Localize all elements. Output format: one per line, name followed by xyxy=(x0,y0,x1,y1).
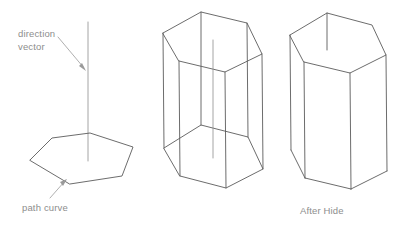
prism-hidden-front-left-vertical-edge xyxy=(304,62,305,178)
direction-vector-label-line2: vector xyxy=(18,41,45,52)
panel-swept-prism-after-hide: After Hide xyxy=(290,13,387,216)
prism-hidden-front-right-vertical-edge xyxy=(350,73,351,189)
prism-wireframe-vertical-edge-5 xyxy=(225,72,226,188)
path-curve-label: path curve xyxy=(22,202,68,213)
prism-wireframe-vertical-edge-3 xyxy=(247,23,248,137)
direction-vector-leader-line xyxy=(58,37,84,68)
prism-hidden-left-vertical-edge xyxy=(290,35,291,150)
direction-vector-label-line1: direction xyxy=(18,28,55,39)
prism-wireframe-vertical-edge-6 xyxy=(179,61,180,176)
prism-hidden-right-vertical-edge xyxy=(386,55,387,171)
prism-hidden-bottom-left-edge xyxy=(291,150,305,178)
panel-swept-prism-wireframe xyxy=(163,12,263,188)
panel-input-geometry: direction vector path curve xyxy=(18,22,133,213)
prism-hidden-bottom-right-edge xyxy=(351,171,387,189)
path-curve-hexagon xyxy=(30,133,133,184)
sweep-diagram-canvas: direction vector path curve xyxy=(0,0,412,231)
prism-hidden-bottom-front-edge xyxy=(305,178,351,189)
prism-wireframe-vertical-edge-1 xyxy=(163,33,164,148)
after-hide-caption: After Hide xyxy=(300,205,344,216)
prism-wireframe-vertical-edge-4 xyxy=(262,54,263,169)
direction-vector-arrowhead-icon xyxy=(79,63,86,71)
